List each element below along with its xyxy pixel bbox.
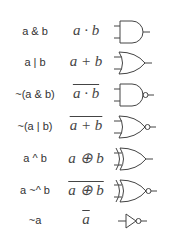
row-xnor: a ~^ b a ⊕ b (0, 176, 196, 206)
not-gate-icon (110, 206, 170, 236)
and-gate-icon (110, 17, 170, 47)
row-xor: a ^ b a ⊕ b (0, 144, 196, 174)
or-gate-icon (110, 48, 170, 78)
math-expression: a ⊕ b (56, 181, 116, 199)
nand-gate-icon (110, 80, 170, 110)
math-expression: a ⊕ b (56, 149, 116, 167)
math-expression: a · b (56, 85, 116, 102)
math-expression: a + b (56, 53, 116, 70)
row-and: a & b a · b (0, 17, 196, 47)
row-or: a | b a + b (0, 48, 196, 78)
math-expression: a + b (56, 117, 116, 134)
math-expression: a · b (56, 22, 116, 39)
row-nor: ~(a | b) a + b (0, 112, 196, 142)
math-expression: a (56, 211, 116, 228)
row-not: ~a a (0, 206, 196, 236)
row-nand: ~(a & b) a · b (0, 80, 196, 110)
nor-gate-icon (110, 112, 170, 142)
xor-gate-icon (110, 144, 170, 174)
xnor-gate-icon (110, 176, 170, 206)
